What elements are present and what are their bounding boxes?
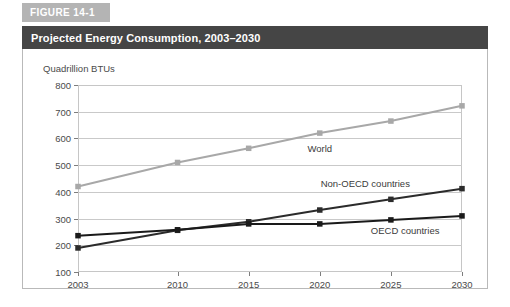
y-tick-label: 300 [55, 213, 71, 224]
x-tick-label: 2015 [238, 279, 259, 290]
x-tick-mark [78, 272, 79, 276]
y-tick-label: 800 [55, 80, 71, 91]
x-tick-mark [249, 272, 250, 276]
data-point-marker [459, 103, 465, 109]
x-tick-label: 2003 [67, 279, 88, 290]
data-point-marker [317, 221, 323, 227]
figure-container: FIGURE 14-1 Projected Energy Consumption… [0, 0, 510, 307]
data-point-marker [317, 130, 323, 136]
data-point-marker [246, 221, 252, 227]
y-tick-label: 700 [55, 106, 71, 117]
data-point-marker [388, 217, 394, 223]
plot-area: 100200300400500600700800 200320102015202… [78, 85, 462, 272]
x-tick-mark [462, 272, 463, 276]
data-point-marker [246, 146, 252, 152]
y-axis-title: Quadrillion BTUs [43, 63, 115, 74]
x-tick-mark [391, 272, 392, 276]
chart-panel: Quadrillion BTUs 10020030040050060070080… [22, 49, 488, 289]
y-tick-label: 400 [55, 186, 71, 197]
data-point-marker [175, 160, 181, 166]
y-tick-label: 500 [55, 160, 71, 171]
x-tick-label: 2030 [451, 279, 472, 290]
figure-title: Projected Energy Consumption, 2003–2030 [22, 32, 260, 44]
series-label: World [305, 142, 334, 153]
figure-title-bar: Projected Energy Consumption, 2003–2030 [22, 26, 488, 49]
series-label: Non-OECD countries [319, 178, 412, 189]
data-point-marker [459, 213, 465, 219]
data-point-marker [459, 186, 465, 192]
figure-number-tab: FIGURE 14-1 [22, 3, 110, 22]
series-line [78, 106, 462, 187]
data-point-marker [75, 245, 81, 251]
data-point-marker [75, 184, 81, 190]
x-tick-mark [178, 272, 179, 276]
y-tick-label: 200 [55, 240, 71, 251]
y-tick-label: 100 [55, 267, 71, 278]
data-point-marker [388, 197, 394, 203]
data-point-marker [75, 233, 81, 239]
figure-number-label: FIGURE 14-1 [22, 7, 95, 18]
data-point-marker [388, 118, 394, 124]
x-tick-label: 2020 [309, 279, 330, 290]
x-tick-label: 2025 [380, 279, 401, 290]
x-tick-label: 2010 [167, 279, 188, 290]
data-point-marker [317, 207, 323, 213]
y-tick-label: 600 [55, 133, 71, 144]
series-label: OECD countries [369, 224, 442, 235]
x-tick-mark [320, 272, 321, 276]
data-point-marker [175, 227, 181, 233]
